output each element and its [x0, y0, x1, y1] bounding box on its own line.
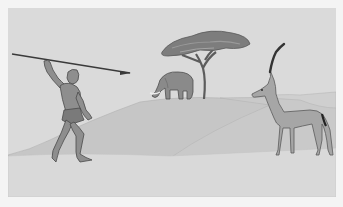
- illustration-frame: [8, 8, 336, 197]
- savanna-hunting-scene: [8, 8, 336, 197]
